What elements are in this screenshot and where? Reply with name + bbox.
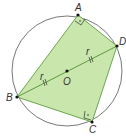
label-d: D: [119, 36, 126, 47]
label-c: C: [89, 124, 97, 135]
quadrilateral-abcd: [17, 15, 117, 122]
point-a: [76, 13, 79, 16]
label-o: O: [63, 76, 71, 87]
label-b: B: [6, 92, 13, 103]
point-b: [15, 95, 18, 98]
label-a: A: [74, 2, 82, 13]
right-angle-dot-c: [87, 114, 89, 116]
right-angle-dot-a: [79, 20, 81, 22]
point-o: [65, 69, 68, 72]
diagram-canvas: A B C D O r r: [0, 0, 126, 136]
